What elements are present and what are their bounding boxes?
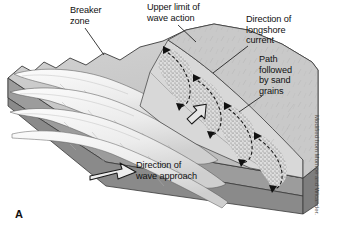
figure-container: Breaker zone Upper limit of wave action … [0, 0, 338, 239]
label-direction-of-wave-approach: Direction of wave approach [136, 160, 197, 181]
label-upper-limit-of-wave-action: Upper limit of wave action [147, 2, 200, 23]
source-credit: Modified from Monroe and Wicander. [314, 115, 321, 235]
figure-letter: A [15, 208, 23, 220]
label-direction-of-longshore-current: Direction of longshore current [246, 14, 291, 46]
label-breaker-zone: Breaker zone [70, 5, 101, 26]
leader-breaker-zone [85, 28, 104, 55]
label-path-followed-by-sand-grains: Path followed by sand grains [259, 54, 292, 96]
